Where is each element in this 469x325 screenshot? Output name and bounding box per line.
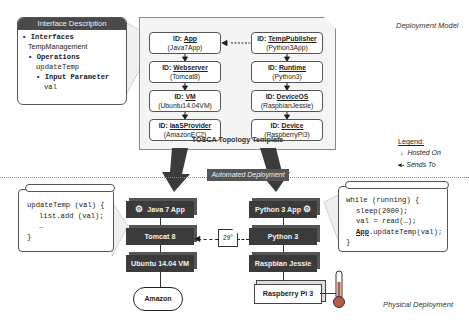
hosted-on-line bbox=[283, 218, 284, 227]
hosted-on-line bbox=[160, 218, 161, 227]
legend-title: Legend: bbox=[398, 137, 424, 146]
code-line: sleep(2000); bbox=[346, 206, 447, 217]
block-raspberry-pi3[interactable]: Raspberry Pi 3 bbox=[254, 284, 322, 304]
hosted-on-line bbox=[160, 245, 161, 254]
sends-to-line bbox=[198, 239, 218, 240]
parameter-name: val bbox=[22, 82, 126, 92]
block-python3[interactable]: Python 3 bbox=[249, 228, 317, 245]
tosca-topology-template: ID: App(Java7App) ID: Webserver(Tomcat8)… bbox=[139, 17, 336, 150]
block-raspbian[interactable]: Raspbian Jessie bbox=[249, 255, 317, 272]
cloud-amazon[interactable]: Amazon bbox=[133, 287, 183, 311]
interfaces-heading: • Interfaces bbox=[22, 32, 126, 42]
code-line: App.updateTemp(val); bbox=[346, 227, 447, 238]
hosted-on-line bbox=[283, 245, 284, 254]
gear-icon: ⚙ bbox=[135, 204, 143, 214]
code-line: } bbox=[27, 232, 113, 243]
thermometer-icon bbox=[332, 270, 346, 310]
tosca-caption: TOSCA Topology Template bbox=[140, 135, 335, 144]
hosted-on-line bbox=[160, 272, 161, 287]
code-scroll-left: updateTemp (val) { list.add (val); … } bbox=[18, 189, 114, 252]
deployment-model-label: Deployment Model bbox=[396, 21, 459, 30]
dashed-left-arrow-icon: ◂- bbox=[398, 161, 404, 168]
code-scroll-right: while (running) { sleep(2000); val = rea… bbox=[338, 186, 448, 252]
arrowhead-left-icon: ◀ bbox=[194, 234, 200, 243]
sends-to-line bbox=[237, 239, 249, 240]
gear-icon: ⚙ bbox=[303, 204, 311, 214]
legend-sends-to: ◂- Sends To bbox=[398, 161, 436, 169]
legend-hosted-on: ↓ Hosted On bbox=[400, 149, 441, 156]
code-line: … bbox=[27, 221, 113, 232]
operation-name: updateTemp bbox=[22, 62, 126, 72]
temperature-message: 29° bbox=[218, 229, 238, 247]
scroll-roll bbox=[345, 181, 449, 189]
hosted-on-arrows bbox=[140, 18, 337, 151]
block-tomcat8[interactable]: Tomcat 8 bbox=[126, 228, 194, 245]
code-line: updateTemp (val) { bbox=[27, 200, 113, 211]
block-ubuntu-vm[interactable]: Ubuntu 14.04 VM bbox=[126, 255, 194, 272]
block-python3-app[interactable]: Python 3 App ⚙ bbox=[249, 201, 317, 218]
scroll-roll bbox=[25, 184, 115, 192]
block-java7-app[interactable]: ⚙ Java 7 App bbox=[126, 201, 194, 218]
automated-deployment-label: Automated Deployment bbox=[207, 169, 289, 181]
input-parameter-heading: • Input Parameter bbox=[22, 72, 126, 82]
hosted-on-line bbox=[283, 272, 284, 282]
code-line: while (running) { bbox=[346, 195, 447, 206]
code-line: list.add (val); bbox=[27, 211, 113, 222]
interface-description-box: Interface Description • Interfaces TempM… bbox=[17, 17, 127, 105]
down-arrow-icon: ↓ bbox=[400, 149, 404, 156]
physical-deployment-label: Physical Deployment bbox=[383, 300, 453, 309]
code-line: val = read(…); bbox=[346, 216, 447, 227]
interface-name: TempManagement bbox=[22, 42, 126, 52]
code-line: } bbox=[346, 237, 447, 248]
interface-description-title: Interface Description bbox=[18, 18, 126, 30]
operations-heading: • Operations bbox=[22, 52, 126, 62]
